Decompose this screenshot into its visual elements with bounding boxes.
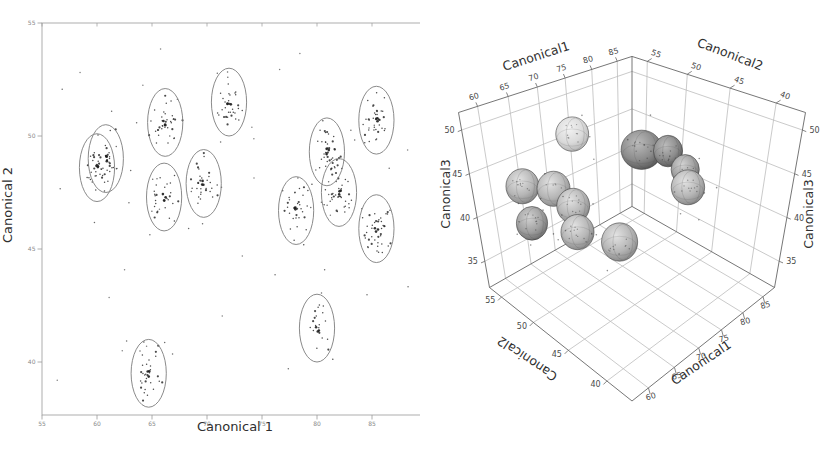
x-tick-label: 65 <box>148 420 156 427</box>
tick-label-3d: 55 <box>650 48 663 60</box>
tick-label-3d: 80 <box>582 54 594 65</box>
y-axis: 40455055 <box>28 19 42 365</box>
ellipsoid <box>561 215 594 250</box>
y-tick-label: 55 <box>28 19 36 26</box>
tick-label-3d: 75 <box>555 63 567 74</box>
y-tick-label: 40 <box>28 358 36 365</box>
ellipsoids <box>506 117 705 261</box>
confidence-ellipse <box>131 339 166 407</box>
confidence-ellipse <box>186 150 221 218</box>
y-tick-label: 45 <box>28 245 36 252</box>
x-tick-label: 60 <box>93 420 101 427</box>
scatter-2d-chart: 556065707580859040455055Canonical 1Canon… <box>0 0 420 449</box>
ellipsoid <box>556 117 589 151</box>
x-tick-label: 80 <box>313 420 321 427</box>
scatter-2d-panel: 556065707580859040455055Canonical 1Canon… <box>0 0 420 449</box>
tick-label-3d: 50 <box>517 322 527 331</box>
tick-label-3d: 45 <box>452 170 462 179</box>
tick-label-3d: 45 <box>802 170 812 179</box>
tick-label-3d: 40 <box>779 90 792 102</box>
tick-label-3d: 85 <box>759 300 771 311</box>
tick-label-3d: 50 <box>444 126 454 135</box>
tick-label-3d: 60 <box>468 91 480 102</box>
tick-label-3d: 40 <box>460 214 470 223</box>
tick-label-3d: 60 <box>645 391 657 402</box>
tick-label-3d: 80 <box>739 316 751 327</box>
ellipsoid <box>506 169 539 204</box>
x-axis-title-bottom: Canonical1 <box>668 337 734 388</box>
x-axis: 5560657075808590 <box>38 23 420 427</box>
x-axis-title: Canonical 1 <box>197 419 273 434</box>
scatter-3d-chart: 6065707580854045505535404550354045504045… <box>420 0 839 449</box>
tick-label-3d: 50 <box>809 126 819 135</box>
tick-label-3d: 40 <box>591 380 601 389</box>
y-axis-title-bottom: Canonical2 <box>494 333 560 384</box>
confidence-ellipse <box>359 195 394 263</box>
tick-label-3d: 45 <box>733 75 746 87</box>
cluster-ellipses <box>79 68 394 407</box>
tick-label-3d: 35 <box>468 257 478 266</box>
tick-label-3d: 85 <box>607 46 619 57</box>
confidence-ellipse <box>147 163 182 231</box>
z-axis-title-right: Canonical3 <box>801 179 816 248</box>
tick-label-3d: 55 <box>485 296 495 305</box>
plot-frame <box>42 23 420 415</box>
figure-canonical-scatter: 556065707580859040455055Canonical 1Canon… <box>0 0 839 449</box>
tick-label-3d: 45 <box>552 350 562 359</box>
x-tick-label: 55 <box>38 420 46 427</box>
x-tick-label: 85 <box>368 420 376 427</box>
scatter-points <box>56 48 408 429</box>
y-axis-title: Canonical 2 <box>0 167 15 243</box>
y-tick-label: 50 <box>28 132 36 139</box>
ellipsoid <box>671 170 704 205</box>
scatter-3d-panel: 6065707580854045505535404550354045504045… <box>420 0 839 449</box>
z-axis-title-left: Canonical3 <box>438 159 453 228</box>
ellipsoid <box>602 223 638 261</box>
tick-label-3d: 35 <box>786 257 796 266</box>
y-axis-title-top: Canonical2 <box>695 35 765 74</box>
confidence-ellipse <box>309 118 344 186</box>
confidence-ellipse <box>211 68 246 136</box>
tick-label-3d: 50 <box>690 61 703 73</box>
tick-label-3d: 65 <box>498 81 510 92</box>
confidence-ellipse <box>88 125 123 193</box>
ellipsoid <box>516 206 547 240</box>
tick-label-3d: 70 <box>528 72 540 83</box>
